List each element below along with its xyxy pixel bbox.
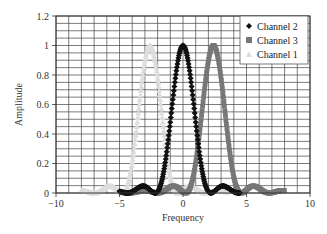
legend: Channel 2 Channel 3 Channel 1 — [240, 16, 308, 64]
y-tick-label: 0.6 — [37, 99, 50, 110]
x-axis: −10−50510 — [48, 193, 315, 209]
x-tick-label: 0 — [181, 198, 186, 209]
y-axis: 00.20.40.60.811.2 — [37, 11, 57, 199]
x-tick-label: −10 — [48, 198, 64, 209]
x-axis-title: Frequency — [162, 212, 204, 223]
square-marker-icon — [246, 37, 252, 43]
y-tick-label: 0.2 — [37, 158, 50, 169]
y-tick-label: 1 — [44, 40, 49, 51]
y-tick-label: 0.8 — [37, 70, 50, 81]
y-tick-label: 0 — [44, 188, 49, 199]
x-tick-label: −5 — [114, 198, 125, 209]
legend-label: Channel 3 — [257, 35, 298, 46]
legend-label: Channel 1 — [257, 49, 298, 60]
chart: 00.20.40.60.811.2 −10−50510 Frequency Am… — [0, 0, 327, 234]
y-tick-label: 1.2 — [37, 11, 50, 22]
y-tick-label: 0.4 — [37, 129, 50, 140]
x-tick-label: 5 — [244, 198, 249, 209]
y-axis-title: Amplitude — [13, 83, 24, 126]
legend-label: Channel 2 — [257, 21, 298, 32]
x-tick-label: 10 — [305, 198, 315, 209]
